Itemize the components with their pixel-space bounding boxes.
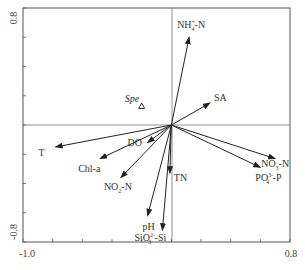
vector-label: DO xyxy=(128,137,142,148)
y-tick-label-bottom: -0.8 xyxy=(8,224,19,240)
vector-label: NO3-N xyxy=(261,158,289,171)
vector-arrow-no xyxy=(171,125,275,159)
vector-label: NH+4-N xyxy=(177,19,205,32)
vector-label: T xyxy=(39,147,45,158)
species-points: Spe xyxy=(125,93,145,109)
x-tick-label-right: 0.8 xyxy=(285,248,298,259)
species-label: Spe xyxy=(125,93,140,104)
vector-label: SiO2-3-Si xyxy=(134,232,166,245)
vector-arrows: NH+4-NSATChl-aDONO2-NTNpHSiO2-3-SiNO3-NP… xyxy=(39,19,290,245)
y-tick-label-top: 0.8 xyxy=(8,12,19,25)
vector-label: pH xyxy=(143,221,155,232)
vector-arrow-sa xyxy=(171,103,210,125)
triangle-marker-icon xyxy=(139,103,145,109)
vector-label: SA xyxy=(214,92,228,103)
vector-label: NO2-N xyxy=(104,181,132,194)
vector-arrow-nh xyxy=(171,37,189,125)
x-tick-label-left: -1.0 xyxy=(19,248,35,259)
vector-label: TN xyxy=(174,172,187,183)
vector-label: PO3-4-P xyxy=(255,172,282,185)
vector-arrow-po xyxy=(171,125,260,167)
biplot-chart: 0.8 -0.8 -1.0 0.8 NH+4-NSATChl-aDONO2-NT… xyxy=(0,0,305,270)
vector-label: Chl-a xyxy=(78,163,101,174)
